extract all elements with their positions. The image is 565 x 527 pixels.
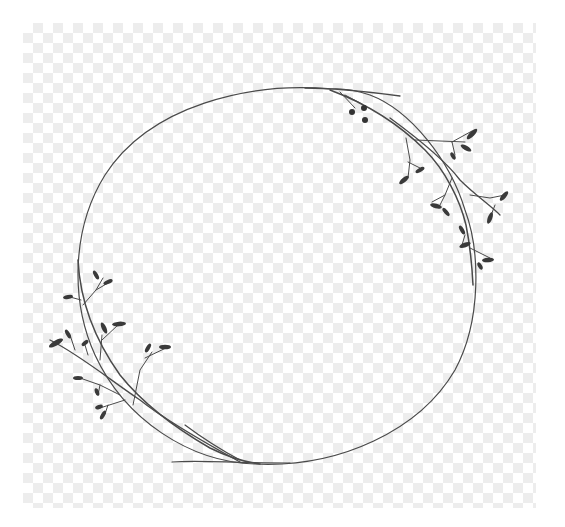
image-canvas (0, 0, 565, 527)
wreath-illustration (0, 0, 565, 527)
bottom-left-branch (48, 260, 290, 464)
wreath-ring (78, 88, 476, 464)
top-right-branch (305, 88, 510, 285)
